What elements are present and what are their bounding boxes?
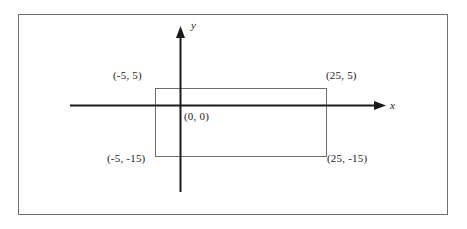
figure-canvas: (-5, 5) (25, 5) (-5, -15) (25, -15) (0, … [0,0,467,229]
y-axis-arrowhead [176,26,185,38]
corner-label-top-right: (25, 5) [326,69,357,81]
x-axis-label: x [390,99,395,111]
x-axis-arrowhead [374,101,386,110]
coordinate-plane-drawing [0,0,467,229]
corner-label-bottom-left: (-5, -15) [107,152,145,164]
corner-label-top-left: (-5, 5) [113,69,142,81]
corner-label-bottom-right: (25, -15) [327,152,367,164]
y-axis-label: y [191,19,196,31]
origin-label: (0, 0) [184,110,209,122]
